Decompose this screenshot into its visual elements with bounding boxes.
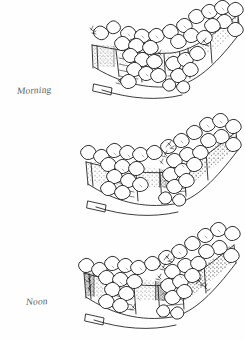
- sketch-panel-noon: Noon: [0, 113, 245, 225]
- drawing-sheet: Morning: [0, 0, 245, 340]
- garden-wall-sketch-icon: [72, 113, 245, 228]
- garden-wall-sketch-icon: [72, 222, 245, 337]
- panel-label-morning: Morning: [16, 84, 52, 96]
- sketch-panel-morning: Morning: [0, 0, 245, 115]
- sketch-panel-evening: Evening: [0, 222, 245, 340]
- garden-wall-sketch-icon: [72, 0, 245, 115]
